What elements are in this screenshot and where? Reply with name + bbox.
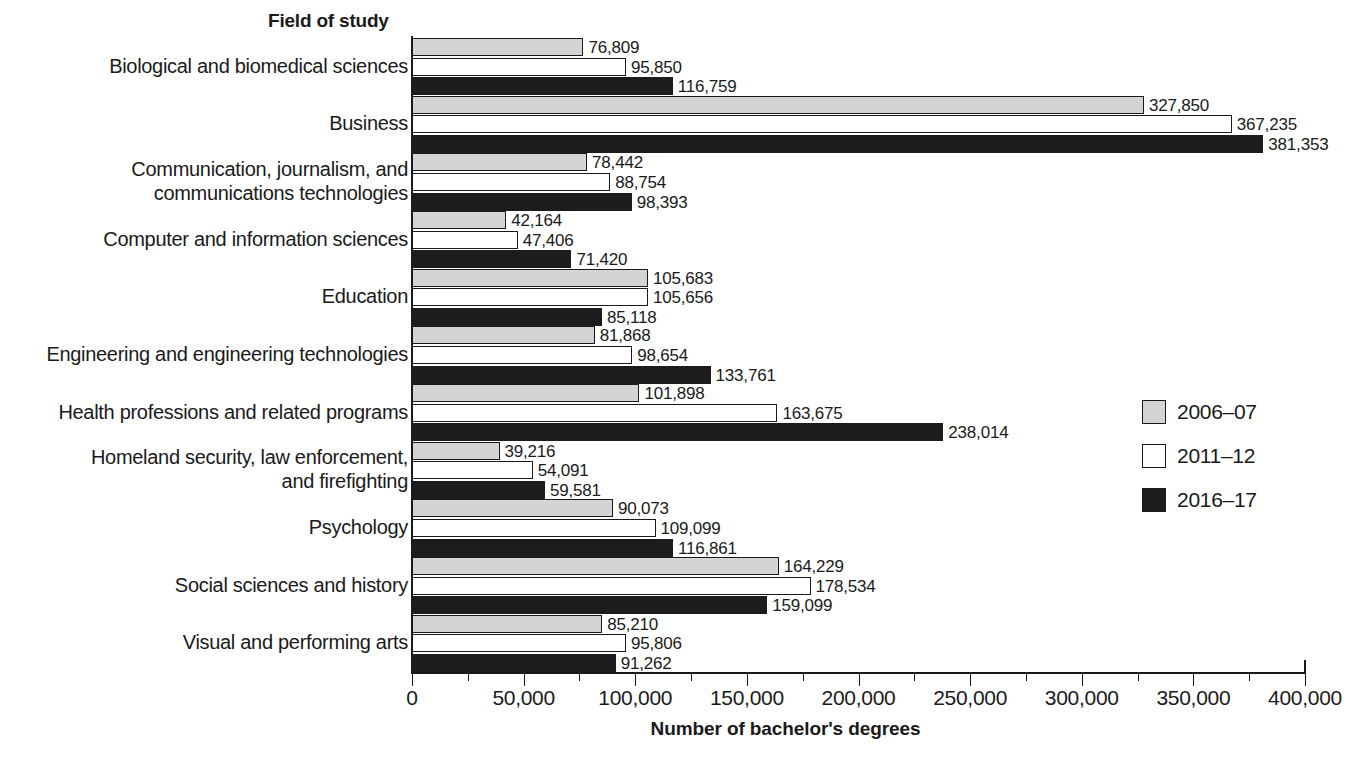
bar-value-label: 105,656 [653, 288, 713, 306]
x-tick-major [412, 674, 413, 686]
x-tick-label: 250,000 [933, 686, 1007, 710]
chart-legend: 2006–072011–122016–17 [1142, 390, 1322, 522]
x-tick-minor [803, 674, 804, 681]
x-axis-end-cap [1304, 660, 1306, 674]
bar-value-label: 105,683 [653, 269, 713, 287]
category-label: Health professions and related programs [8, 400, 408, 424]
bar-2006-07 [412, 499, 613, 517]
bar-2011-12 [412, 634, 626, 652]
bar-value-label: 178,534 [816, 577, 876, 595]
legend-swatch-icon [1142, 444, 1166, 468]
bar-value-label: 81,868 [600, 326, 651, 344]
x-tick-major [970, 674, 971, 686]
x-tick-label: 0 [406, 686, 417, 710]
bar-2011-12 [412, 346, 632, 364]
category-label: Computer and information sciences [8, 227, 408, 251]
legend-label: 2011–12 [1177, 444, 1255, 468]
bar-2016-17 [412, 77, 673, 95]
category-label: Business [8, 111, 408, 135]
x-tick-label: 300,000 [1045, 686, 1119, 710]
bar-value-label: 116,759 [678, 77, 737, 95]
bar-2016-17 [412, 250, 571, 268]
legend-item[interactable]: 2011–12 [1142, 434, 1322, 478]
x-axis-title: Number of bachelor's degrees [0, 718, 1366, 740]
x-tick-label: 400,000 [1268, 686, 1342, 710]
x-tick-major [859, 674, 860, 686]
bar-value-label: 47,406 [523, 231, 574, 249]
category-label: Social sciences and history [8, 573, 408, 597]
bar-2016-17 [412, 308, 602, 326]
bar-value-label: 159,099 [772, 596, 832, 614]
bar-value-label: 98,654 [637, 346, 688, 364]
bar-value-label: 116,861 [678, 539, 737, 557]
bar-2006-07 [412, 557, 779, 575]
legend-swatch-icon [1142, 400, 1166, 424]
x-tick-label: 50,000 [492, 686, 554, 710]
bar-2016-17 [412, 654, 616, 672]
legend-label: 2016–17 [1177, 488, 1257, 512]
x-tick-minor [914, 674, 915, 681]
bar-2006-07 [412, 326, 595, 344]
bar-2011-12 [412, 461, 533, 479]
bar-2016-17 [412, 135, 1263, 153]
bar-value-label: 101,898 [644, 384, 704, 402]
bar-value-label: 163,675 [782, 404, 842, 422]
category-label: Psychology [8, 515, 408, 539]
bar-value-label: 95,850 [631, 58, 682, 76]
bar-value-label: 39,216 [505, 442, 556, 460]
bar-value-label: 76,809 [588, 38, 639, 56]
x-tick-major [1082, 674, 1083, 686]
bar-2016-17 [412, 596, 767, 614]
x-tick-major [1193, 674, 1194, 686]
bar-value-label: 71,420 [576, 250, 627, 268]
bar-value-label: 164,229 [784, 557, 844, 575]
bar-2016-17 [412, 423, 943, 441]
x-tick-minor [1249, 674, 1250, 681]
bar-value-label: 133,761 [716, 366, 776, 384]
x-tick-major [747, 674, 748, 686]
bar-2011-12 [412, 115, 1232, 133]
x-tick-label: 350,000 [1156, 686, 1230, 710]
bar-value-label: 91,262 [621, 654, 672, 672]
bar-2006-07 [412, 211, 506, 229]
x-tick-major [1305, 674, 1306, 686]
bar-value-label: 78,442 [592, 153, 643, 171]
x-tick-major [524, 674, 525, 686]
bar-2011-12 [412, 519, 656, 537]
bar-2011-12 [412, 288, 648, 306]
bar-value-label: 381,353 [1268, 135, 1328, 153]
bar-2006-07 [412, 615, 602, 633]
bar-value-label: 238,014 [948, 423, 1008, 441]
bar-value-label: 85,210 [607, 615, 658, 633]
bar-2006-07 [412, 96, 1144, 114]
category-label: Homeland security, law enforcement, and … [8, 445, 408, 493]
bar-2006-07 [412, 384, 639, 402]
x-tick-label: 100,000 [598, 686, 672, 710]
bar-2006-07 [412, 153, 587, 171]
x-tick-major [635, 674, 636, 686]
bar-2011-12 [412, 58, 626, 76]
x-tick-minor [1026, 674, 1027, 681]
bar-value-label: 54,091 [538, 461, 589, 479]
x-axis-title-text: Number of bachelor's degrees [651, 718, 921, 740]
legend-label: 2006–07 [1177, 400, 1257, 424]
bar-value-label: 90,073 [618, 499, 669, 517]
bar-value-label: 109,099 [661, 519, 721, 537]
bar-2006-07 [412, 269, 648, 287]
bar-value-label: 88,754 [615, 173, 666, 191]
bar-value-label: 59,581 [550, 481, 601, 499]
bar-2011-12 [412, 173, 610, 191]
legend-item[interactable]: 2006–07 [1142, 390, 1322, 434]
bar-value-label: 98,393 [637, 193, 688, 211]
category-label: Communication, journalism, and communica… [8, 157, 408, 205]
chart-title-field-of-study: Field of study [268, 10, 389, 32]
bar-value-label: 327,850 [1149, 96, 1209, 114]
bar-2016-17 [412, 366, 711, 384]
category-label: Visual and performing arts [8, 630, 408, 654]
category-label: Engineering and engineering technologies [8, 342, 408, 366]
x-tick-minor [1138, 674, 1139, 681]
legend-item[interactable]: 2016–17 [1142, 478, 1322, 522]
bar-value-label: 367,235 [1237, 115, 1297, 133]
bar-2011-12 [412, 404, 777, 422]
category-label: Biological and biomedical sciences [8, 54, 408, 78]
